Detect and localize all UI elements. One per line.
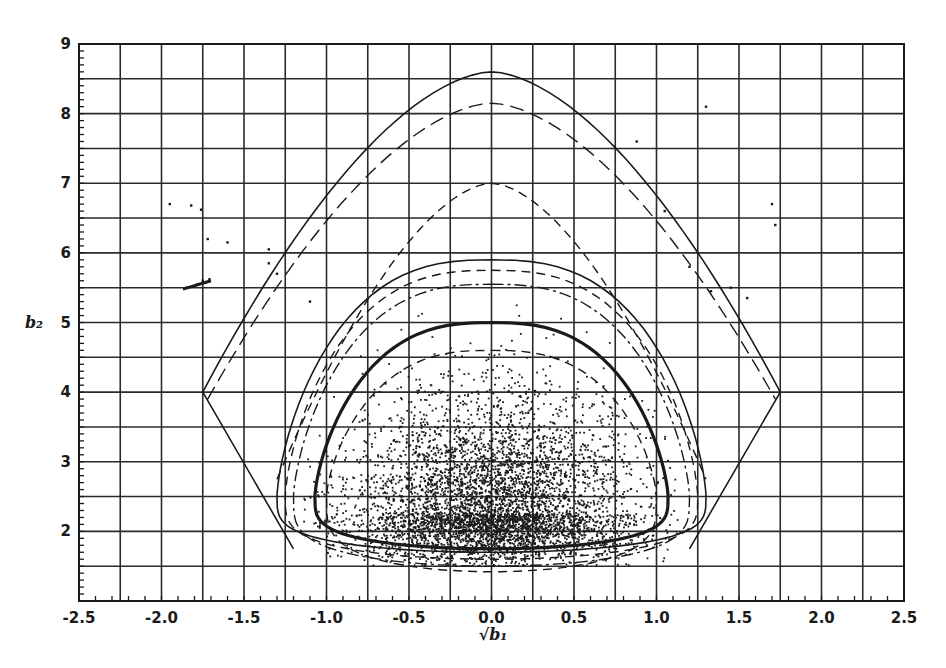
- scatter-point: [430, 504, 432, 506]
- scatter-point: [399, 495, 401, 497]
- scatter-point: [358, 530, 360, 532]
- scatter-point: [446, 518, 448, 520]
- scatter-point: [487, 504, 489, 506]
- scatter-point: [415, 523, 417, 525]
- scatter-point: [514, 510, 516, 512]
- scatter-point: [432, 410, 434, 412]
- scatter-point: [585, 506, 587, 508]
- x-tick-label: 0.5: [561, 609, 588, 627]
- scatter-point: [650, 437, 652, 439]
- scatter-point: [360, 459, 362, 461]
- scatter-point: [480, 487, 482, 489]
- scatter-point: [407, 507, 409, 509]
- scatter-point: [572, 464, 574, 466]
- scatter-point: [473, 514, 475, 516]
- scatter-point: [462, 538, 464, 540]
- scatter-point: [629, 523, 631, 525]
- scatter-point: [583, 501, 585, 503]
- scatter-point: [607, 416, 609, 418]
- scatter-point: [504, 536, 506, 538]
- scatter-point: [621, 503, 623, 505]
- scatter-point: [521, 488, 523, 490]
- scatter-point: [471, 501, 473, 503]
- scatter-point: [482, 456, 484, 458]
- scatter-point: [420, 422, 422, 424]
- scatter-point: [364, 440, 366, 442]
- scatter-point: [402, 534, 404, 536]
- scatter-point: [604, 550, 606, 552]
- scatter-point: [584, 537, 586, 539]
- scatter-point: [425, 528, 427, 530]
- scatter-point: [619, 543, 621, 545]
- scatter-point: [451, 449, 453, 451]
- scatter-point: [503, 496, 505, 498]
- scatter-point: [390, 534, 392, 536]
- scatter-point: [412, 440, 414, 442]
- scatter-point: [557, 521, 559, 523]
- scatter-point: [413, 537, 415, 539]
- scatter-point: [532, 514, 534, 516]
- scatter-point: [544, 540, 546, 542]
- scatter-point: [469, 471, 471, 473]
- scatter-point: [431, 521, 433, 523]
- scatter-point: [439, 462, 441, 464]
- scatter-point: [478, 406, 480, 408]
- scatter-point: [633, 515, 635, 517]
- scatter-point: [492, 520, 494, 522]
- scatter-point: [472, 558, 474, 560]
- scatter-point: [470, 498, 472, 500]
- scatter-point: [330, 484, 332, 486]
- scatter-point: [467, 394, 469, 396]
- scatter-point: [575, 397, 577, 399]
- scatter-point: [576, 394, 578, 396]
- scatter-point: [659, 517, 661, 519]
- scatter-point: [371, 443, 373, 445]
- scatter-point: [470, 476, 472, 478]
- scatter-point: [435, 496, 437, 498]
- scatter-point: [523, 498, 525, 500]
- scatter-point: [455, 530, 457, 532]
- scatter-point: [540, 504, 542, 506]
- scatter-point: [542, 520, 544, 522]
- scatter-point: [421, 418, 423, 420]
- scatter-point: [479, 557, 481, 559]
- scatter-point: [520, 463, 522, 465]
- scatter-point: [482, 467, 484, 469]
- scatter-point: [427, 482, 429, 484]
- scatter-point: [424, 480, 426, 482]
- scatter-point: [564, 554, 566, 556]
- scatter-point: [495, 431, 497, 433]
- scatter-point: [523, 540, 525, 542]
- scatter-point: [624, 446, 626, 448]
- scatter-point: [513, 492, 515, 494]
- scatter-point: [378, 519, 380, 521]
- scatter-point: [589, 407, 591, 409]
- scatter-point: [390, 474, 392, 476]
- scatter-point: [368, 536, 370, 538]
- scatter-point: [482, 477, 484, 479]
- scatter-point: [573, 478, 575, 480]
- scatter-point: [502, 481, 504, 483]
- scatter-point: [340, 556, 342, 558]
- scatter-point: [608, 501, 610, 503]
- scatter-point: [392, 467, 394, 469]
- scatter-point: [576, 507, 578, 509]
- scatter-point: [511, 515, 513, 517]
- scatter-point: [535, 519, 537, 521]
- scatter-point: [503, 454, 505, 456]
- scatter-point: [432, 495, 434, 497]
- scatter-point: [516, 520, 518, 522]
- scatter-point: [426, 487, 428, 489]
- scatter-point: [478, 439, 480, 441]
- scatter-point: [542, 482, 544, 484]
- scatter-point: [479, 418, 481, 420]
- scatter-point: [506, 530, 508, 532]
- scatter-point: [608, 519, 610, 521]
- scatter-point: [443, 544, 445, 546]
- scatter-point: [530, 483, 532, 485]
- scatter-point: [550, 532, 552, 534]
- scatter-point: [420, 476, 422, 478]
- scatter-point: [519, 457, 521, 459]
- scatter-point: [361, 481, 363, 483]
- scatter-point: [426, 415, 428, 417]
